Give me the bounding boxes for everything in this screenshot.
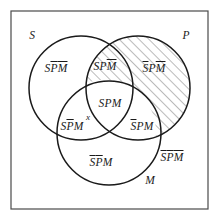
set-label-p: P xyxy=(182,29,189,41)
region-label-outside: SPM xyxy=(161,151,184,163)
region-label-s-m-not-p: SPM xyxy=(61,120,84,132)
region-label-m-only: SPM xyxy=(90,156,113,168)
x-marker: x xyxy=(86,112,90,122)
region-label-s-p-not-m: SPM xyxy=(94,60,117,72)
venn-diagram-figure: S P M SPM SPM SPM SPM SPM SPM SPM SPM x xyxy=(0,0,219,220)
region-label-s-p-m: SPM xyxy=(99,97,122,109)
set-label-s: S xyxy=(29,29,35,41)
region-label-p-only: SPM xyxy=(143,62,166,74)
set-label-m: M xyxy=(145,174,155,186)
region-label-p-m-not-s: SPM xyxy=(131,120,154,132)
region-label-s-only: SPM xyxy=(45,62,68,74)
